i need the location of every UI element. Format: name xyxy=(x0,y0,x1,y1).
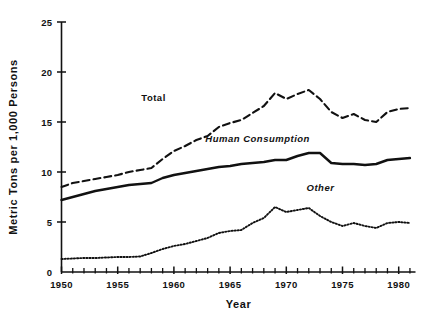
series-label-total: Total xyxy=(141,92,166,103)
chart-container: 0510152025 1950195519601965197019751980 … xyxy=(0,0,442,317)
series-annotation-labels: TotalHuman ConsumptionOther xyxy=(141,92,335,193)
x-tick-label: 1955 xyxy=(106,279,129,290)
y-tick-label: 25 xyxy=(41,17,53,28)
x-tick-label: 1975 xyxy=(331,279,354,290)
axes-group xyxy=(62,22,416,272)
series-other xyxy=(62,207,410,259)
series-label-other: Other xyxy=(307,182,336,193)
x-axis-minor-ticks xyxy=(62,267,410,275)
y-tick-label: 0 xyxy=(47,267,53,278)
y-tick-label: 10 xyxy=(41,167,52,178)
x-axis-tick-labels: 1950195519601965197019751980 xyxy=(50,279,410,290)
x-tick-label: 1965 xyxy=(219,279,242,290)
y-tick-label: 20 xyxy=(41,67,52,78)
x-tick-label: 1970 xyxy=(275,279,298,290)
x-tick-label: 1980 xyxy=(387,279,410,290)
data-series-group xyxy=(62,90,410,259)
x-axis-title: Year xyxy=(226,298,252,310)
chart-plot-area: 0510152025 1950195519601965197019751980 … xyxy=(0,0,442,317)
y-axis-title: Metric Tons per 1,000 Persons xyxy=(7,59,19,235)
series-label-human-consumption: Human Consumption xyxy=(205,133,310,144)
x-tick-label: 1960 xyxy=(163,279,186,290)
series-human-consumption xyxy=(62,153,410,200)
y-tick-label: 15 xyxy=(41,117,53,128)
y-tick-label: 5 xyxy=(47,217,53,228)
x-tick-label: 1950 xyxy=(50,279,73,290)
y-axis-tick-labels: 0510152025 xyxy=(41,17,53,278)
